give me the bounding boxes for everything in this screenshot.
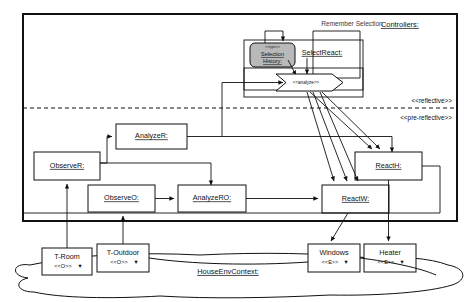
analyze-label: <<analyze>> [293, 80, 320, 85]
edge-reactw-to-windows [331, 213, 348, 241]
edge-observer-to-analyzer [100, 137, 112, 164]
windows-marker: ▼ [343, 259, 349, 265]
observe-o-label: ObserveO: [104, 193, 139, 202]
analyze-ro-node[interactable]: AnalyzeRO: [178, 185, 246, 212]
windows-stereotype: <<E>> [322, 259, 339, 265]
selection-history-selfloop [265, 31, 283, 44]
edge-observer-to-analyzero [100, 163, 211, 185]
t-room-marker: ▼ [77, 263, 83, 269]
t-room-label: T-Room [54, 252, 80, 261]
react-w-label: ReactW: [342, 194, 369, 203]
analyze-ro-label: AnalyzeRO: [193, 193, 231, 202]
pre-reflective-label: <<pre-reflective>> [400, 114, 452, 122]
heater-label: Heater [379, 248, 401, 257]
diagram-canvas: Controllers: <<reflective>> <<pre-reflec… [0, 0, 472, 302]
remember-selection-note: Remember Selection [321, 20, 383, 27]
reflective-label: <<reflective>> [411, 97, 452, 104]
edge-analyze-to-reacth-2 [322, 92, 380, 149]
analyze-r-label: AnalyzeR: [135, 131, 168, 140]
t-outdoor-label: T-Outdoor [107, 248, 140, 257]
react-h-label: ReactH: [376, 161, 402, 170]
t-outdoor-marker: ▼ [133, 259, 139, 265]
architecture-diagram: Controllers: <<reflective>> <<pre-reflec… [0, 0, 472, 302]
react-h-node[interactable]: ReactH: [355, 152, 422, 180]
observe-o-node[interactable]: ObserveO: [88, 185, 155, 212]
observe-r-label: ObserveR: [50, 161, 84, 170]
t-outdoor-stereotype: <<O>> [110, 259, 127, 265]
heater-node[interactable]: Heater <<E>> ▼ [364, 244, 416, 272]
select-react-label[interactable]: SelectReact: [302, 48, 343, 57]
windows-node[interactable]: Windows <<E>> ▼ [308, 244, 360, 272]
windows-label: Windows [319, 248, 349, 257]
analyze-node[interactable]: <<analyze>> [276, 74, 343, 91]
selection-history-line2: History: [263, 58, 282, 64]
house-env-context-label: HouseEnvContext: [197, 267, 259, 276]
t-room-node[interactable]: T-Room <<O>> ▼ [42, 248, 92, 275]
observe-r-node[interactable]: ObserveR: [34, 152, 100, 180]
t-outdoor-node[interactable]: T-Outdoor <<O>> ▼ [97, 244, 149, 272]
react-w-node[interactable]: ReactW: [322, 185, 389, 213]
t-room-stereotype: <<O>> [54, 263, 71, 269]
controllers-frame-label: Controllers: [381, 20, 419, 29]
selection-history-node[interactable]: <<type>> Selection History: [250, 43, 295, 67]
analyze-r-node[interactable]: AnalyzeR: [116, 124, 187, 149]
selection-history-stereotype: <<type>> [265, 45, 280, 49]
selection-history-line1: Selection [261, 51, 284, 57]
env-bus-upper [149, 258, 308, 264]
